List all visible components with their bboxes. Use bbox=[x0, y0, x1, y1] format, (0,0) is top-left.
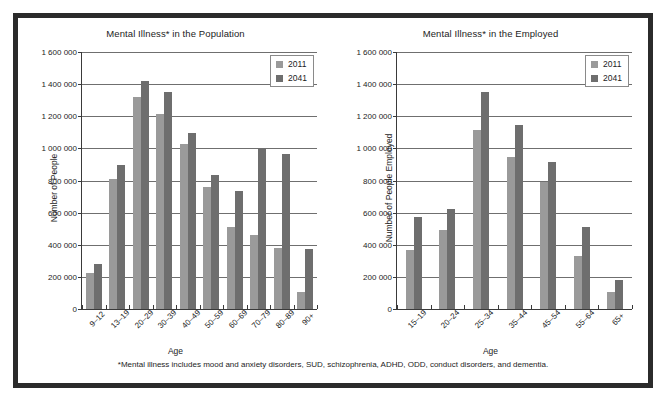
y-tick-label: 1 200 000 bbox=[41, 112, 77, 121]
legend-item-2011: 2011 bbox=[276, 59, 307, 69]
bar-group bbox=[106, 52, 130, 309]
x-tick-cell: 20–24 bbox=[431, 309, 465, 349]
bar-2011 bbox=[540, 182, 548, 309]
bar-2011 bbox=[607, 292, 615, 309]
y-tick-label: 0 bbox=[73, 305, 77, 314]
x-tick-mark bbox=[129, 305, 130, 309]
x-tick-label: 25–34 bbox=[473, 308, 495, 330]
y-tick-label: 800 000 bbox=[363, 176, 392, 185]
bar-group bbox=[294, 52, 318, 309]
x-tick-labels: 9–1213–1920–2930–3940–4950–5960–6970–798… bbox=[82, 309, 317, 349]
y-tick-label: 1 200 000 bbox=[356, 112, 392, 121]
x-tick-labels: 15–1920–2425–3435–4445–5455–6465+ bbox=[397, 309, 632, 349]
bar-group bbox=[176, 52, 200, 309]
bar-2041 bbox=[305, 249, 313, 309]
y-tick-label: 0 bbox=[388, 305, 392, 314]
bar-2011 bbox=[86, 273, 94, 309]
x-tick-cell: 20–29 bbox=[129, 309, 153, 349]
bar-group bbox=[565, 52, 599, 309]
bars-layer bbox=[397, 52, 632, 309]
x-tick-label: 15–19 bbox=[406, 308, 428, 330]
bar-2011 bbox=[227, 227, 235, 309]
bar-group bbox=[82, 52, 106, 309]
y-tick-label: 600 000 bbox=[363, 208, 392, 217]
x-tick-cell: 65+ bbox=[598, 309, 632, 349]
x-tick-mark bbox=[106, 305, 107, 309]
chart-title: Mental Illness* in the Employed bbox=[333, 28, 648, 39]
bar-2011 bbox=[203, 187, 211, 309]
x-tick-cell: 80–89 bbox=[270, 309, 294, 349]
bar-2011 bbox=[250, 235, 258, 309]
plot-wrapper: 0200 000400 000600 000800 0001 000 0001 … bbox=[81, 52, 317, 310]
legend-label: 2011 bbox=[288, 59, 306, 69]
x-tick-cell: 45–54 bbox=[531, 309, 565, 349]
x-tick-mark bbox=[464, 305, 465, 309]
x-tick-cell: 13–19 bbox=[106, 309, 130, 349]
bar-2011 bbox=[180, 144, 188, 309]
bar-group bbox=[397, 52, 431, 309]
bar-group bbox=[223, 52, 247, 309]
x-tick-cell: 70–79 bbox=[247, 309, 271, 349]
y-tick-label: 200 000 bbox=[363, 272, 392, 281]
bar-2041 bbox=[582, 227, 590, 309]
x-tick-mark bbox=[317, 305, 318, 309]
legend: 2011 2041 bbox=[585, 55, 629, 87]
legend-swatch-icon bbox=[276, 61, 283, 68]
y-tick-label: 1 400 000 bbox=[41, 80, 77, 89]
x-tick-cell: 40–49 bbox=[176, 309, 200, 349]
bar-2041 bbox=[615, 280, 623, 309]
bar-2041 bbox=[282, 154, 290, 309]
figure-frame: Mental Illness* in the Population Number… bbox=[13, 13, 653, 388]
bar-2011 bbox=[297, 292, 305, 309]
bar-2011 bbox=[274, 248, 282, 309]
bar-group bbox=[531, 52, 565, 309]
x-tick-cell: 55–64 bbox=[565, 309, 599, 349]
x-tick-mark bbox=[82, 305, 83, 309]
footnote: *Mental illness includes mood and anxiet… bbox=[18, 360, 648, 369]
x-tick-cell: 15–19 bbox=[397, 309, 431, 349]
bars-layer bbox=[82, 52, 317, 309]
x-tick-cell: 90+ bbox=[294, 309, 318, 349]
x-tick-mark bbox=[397, 305, 398, 309]
legend-item-2041: 2041 bbox=[591, 73, 622, 83]
x-tick-mark bbox=[498, 305, 499, 309]
y-tick-label: 600 000 bbox=[48, 208, 77, 217]
x-tick-mark bbox=[223, 305, 224, 309]
x-tick-mark bbox=[598, 305, 599, 309]
legend-swatch-icon bbox=[591, 61, 598, 68]
x-tick-cell: 50–59 bbox=[200, 309, 224, 349]
bar-group bbox=[129, 52, 153, 309]
bar-2011 bbox=[109, 179, 117, 309]
x-tick-label: 9–12 bbox=[87, 310, 106, 329]
legend: 2011 2041 bbox=[270, 55, 314, 87]
x-tick-cell: 9–12 bbox=[82, 309, 106, 349]
bar-2041 bbox=[94, 264, 102, 309]
x-tick-mark bbox=[632, 305, 633, 309]
bar-2041 bbox=[211, 175, 219, 309]
bar-group bbox=[464, 52, 498, 309]
legend-label: 2041 bbox=[603, 73, 622, 83]
bar-2041 bbox=[447, 209, 455, 309]
y-tick-label: 1 600 000 bbox=[41, 48, 77, 57]
bar-2041 bbox=[481, 92, 489, 309]
legend-swatch-icon bbox=[276, 75, 283, 82]
y-tick-label: 1 400 000 bbox=[356, 80, 392, 89]
x-tick-label: 90+ bbox=[300, 311, 316, 327]
bar-2011 bbox=[574, 256, 582, 309]
chart-population: Mental Illness* in the Population Number… bbox=[18, 18, 333, 358]
bar-2011 bbox=[156, 114, 164, 309]
x-tick-mark bbox=[176, 305, 177, 309]
charts-row: Mental Illness* in the Population Number… bbox=[18, 18, 648, 358]
y-tick-label: 400 000 bbox=[48, 240, 77, 249]
bar-group bbox=[247, 52, 271, 309]
x-tick-mark bbox=[531, 305, 532, 309]
bar-2011 bbox=[507, 157, 515, 309]
y-tick-label: 1 000 000 bbox=[356, 144, 392, 153]
bar-2041 bbox=[117, 165, 125, 309]
y-tick-label: 200 000 bbox=[48, 272, 77, 281]
y-tick-label: 400 000 bbox=[363, 240, 392, 249]
legend-swatch-icon bbox=[591, 75, 598, 82]
legend-item-2041: 2041 bbox=[276, 73, 307, 83]
x-tick-label: 20–24 bbox=[439, 308, 461, 330]
x-tick-cell: 60–69 bbox=[223, 309, 247, 349]
